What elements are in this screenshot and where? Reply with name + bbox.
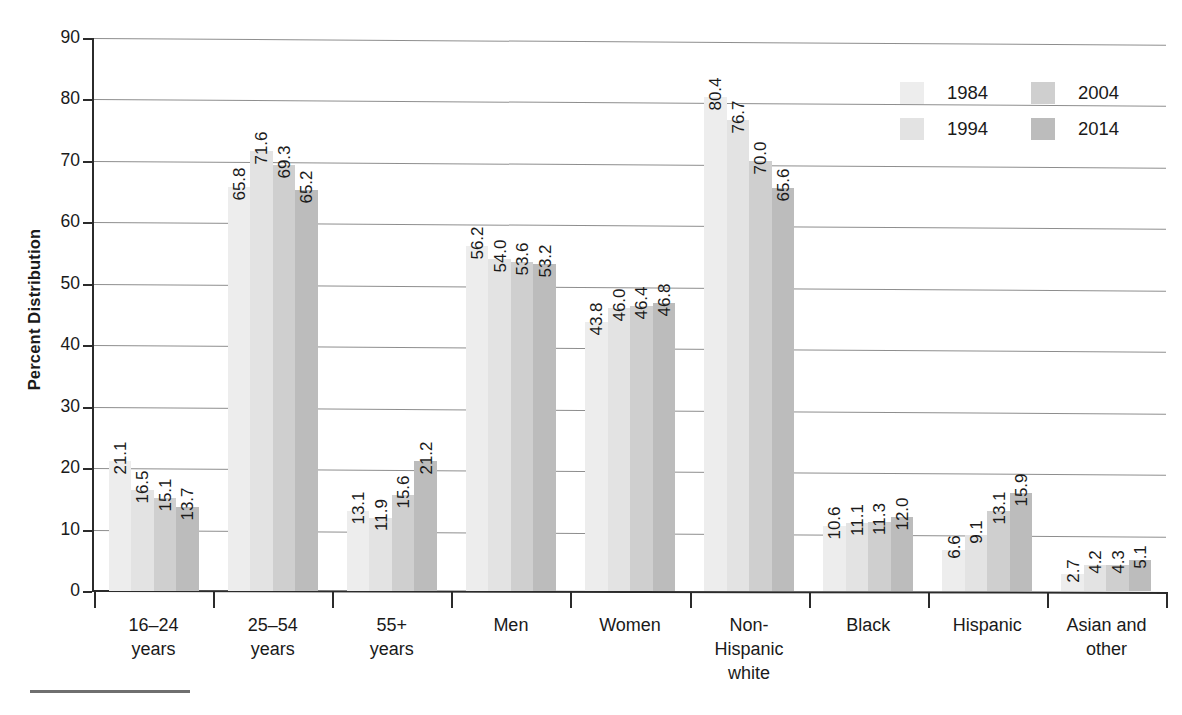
x-category-label-line: years bbox=[94, 638, 213, 662]
x-category-label: Black bbox=[809, 614, 928, 638]
x-tick-mark bbox=[332, 592, 334, 608]
bar-value-text: 11.3 bbox=[871, 503, 888, 535]
bar: 10.6 bbox=[823, 526, 846, 591]
x-category-label-line: Women bbox=[570, 614, 689, 638]
bar: 46.4 bbox=[630, 306, 653, 591]
bar-value-text: 4.3 bbox=[1109, 550, 1126, 574]
x-tick-mark bbox=[94, 592, 96, 608]
bar: 13.1 bbox=[987, 511, 1010, 591]
bar: 70.0 bbox=[749, 161, 772, 591]
bar-value-text: 80.4 bbox=[707, 77, 724, 110]
x-category-label: Men bbox=[451, 614, 570, 638]
y-tick-label: 60 bbox=[38, 213, 80, 231]
x-category-label: Women bbox=[570, 614, 689, 638]
bar: 71.6 bbox=[250, 151, 273, 591]
y-tick-mark bbox=[83, 99, 92, 101]
bar-value-text: 9.1 bbox=[968, 520, 985, 544]
bar-value-text: 13.1 bbox=[990, 491, 1007, 524]
bar: 16.5 bbox=[131, 490, 154, 591]
y-tick-label: 30 bbox=[38, 398, 80, 416]
bar: 11.9 bbox=[369, 518, 392, 591]
y-tick-mark bbox=[83, 591, 92, 593]
bar-value-text: 53.6 bbox=[514, 242, 531, 275]
bar-group: 21.116.515.113.7 bbox=[109, 38, 199, 591]
bar-value-text: 21.1 bbox=[111, 442, 128, 475]
bottom-divider bbox=[30, 690, 190, 693]
x-category-label: 16–24years bbox=[94, 614, 213, 662]
bar-value-text: 12.0 bbox=[893, 498, 910, 531]
bar-value-text: 21.2 bbox=[417, 441, 434, 474]
y-tick-mark bbox=[83, 38, 92, 40]
bar-value-text: 2.7 bbox=[1064, 560, 1081, 584]
bar: 15.6 bbox=[392, 495, 415, 591]
bar-value-text: 13.1 bbox=[350, 491, 367, 524]
x-tick-mark bbox=[213, 592, 215, 608]
bar-group: 56.254.053.653.2 bbox=[466, 38, 556, 591]
x-category-label-line: Non- bbox=[690, 614, 809, 638]
bar: 21.1 bbox=[109, 461, 132, 591]
bar-value-text: 5.1 bbox=[1132, 545, 1149, 569]
bar-chart: Percent Distribution 0102030405060708090… bbox=[0, 0, 1182, 715]
bar-value-text: 56.2 bbox=[469, 226, 486, 259]
bar-value-text: 70.0 bbox=[752, 141, 769, 174]
bar-value-text: 15.6 bbox=[395, 476, 412, 509]
bar: 69.3 bbox=[273, 165, 296, 591]
bar-group: 43.846.046.446.8 bbox=[585, 38, 675, 591]
y-tick-label: 90 bbox=[38, 29, 80, 47]
bar-value-text: 54.0 bbox=[491, 240, 508, 273]
y-tick-mark bbox=[83, 284, 92, 286]
x-category-label-line: Hispanic bbox=[690, 638, 809, 662]
bar: 53.6 bbox=[511, 262, 534, 591]
bar: 53.2 bbox=[533, 264, 556, 591]
bar-value-text: 65.6 bbox=[774, 168, 791, 201]
y-tick-label: 10 bbox=[38, 521, 80, 539]
bar: 5.1 bbox=[1129, 560, 1152, 591]
x-category-label-line: 25–54 bbox=[213, 614, 332, 638]
bar: 65.2 bbox=[295, 190, 318, 591]
legend: 1984200419942014 bbox=[900, 76, 1162, 146]
bar: 13.1 bbox=[347, 511, 370, 591]
legend-label: 1984 bbox=[947, 84, 1001, 103]
legend-swatch bbox=[1031, 118, 1055, 140]
x-tick-mark bbox=[451, 592, 453, 608]
bar-value-text: 15.9 bbox=[1013, 474, 1030, 507]
bar-group: 80.476.770.065.6 bbox=[704, 38, 794, 591]
bar-group: 65.871.669.365.2 bbox=[228, 38, 318, 591]
bar: 11.3 bbox=[868, 522, 891, 591]
bar: 43.8 bbox=[585, 322, 608, 591]
bar-value-text: 69.3 bbox=[275, 146, 292, 179]
y-tick-label: 40 bbox=[38, 336, 80, 354]
y-tick-mark bbox=[83, 161, 92, 163]
y-tick-mark bbox=[83, 530, 92, 532]
bar-value-text: 46.0 bbox=[610, 289, 627, 322]
bar: 21.2 bbox=[414, 461, 437, 591]
x-tick-mark bbox=[690, 592, 692, 608]
x-category-label-line: other bbox=[1047, 638, 1166, 662]
x-category-label-line: Hispanic bbox=[928, 614, 1047, 638]
bar-group: 13.111.915.621.2 bbox=[347, 38, 437, 591]
legend-label: 2004 bbox=[1078, 84, 1132, 103]
bar-value-text: 43.8 bbox=[588, 302, 605, 335]
bar: 65.8 bbox=[228, 187, 251, 591]
x-tick-mark bbox=[928, 592, 930, 608]
bar: 80.4 bbox=[704, 97, 727, 591]
y-tick-mark bbox=[83, 407, 92, 409]
bar-value-text: 65.8 bbox=[230, 167, 247, 200]
bar: 46.8 bbox=[653, 303, 676, 591]
bar-value-text: 53.2 bbox=[536, 245, 553, 278]
bar: 11.1 bbox=[846, 523, 869, 591]
x-category-label-line: white bbox=[690, 662, 809, 686]
y-tick-label: 20 bbox=[38, 459, 80, 477]
legend-swatch bbox=[900, 118, 924, 140]
bar-value-text: 6.6 bbox=[945, 536, 962, 560]
bar: 12.0 bbox=[891, 517, 914, 591]
bar-value-text: 46.8 bbox=[655, 284, 672, 317]
x-category-label-line: years bbox=[213, 638, 332, 662]
bar-value-text: 46.4 bbox=[633, 286, 650, 319]
x-category-label: 25–54years bbox=[213, 614, 332, 662]
bar-value-text: 16.5 bbox=[134, 470, 151, 503]
y-tick-label: 0 bbox=[38, 582, 80, 600]
y-tick-label: 80 bbox=[38, 90, 80, 108]
legend-label: 2014 bbox=[1078, 120, 1132, 139]
bar-value-text: 65.2 bbox=[298, 171, 315, 204]
